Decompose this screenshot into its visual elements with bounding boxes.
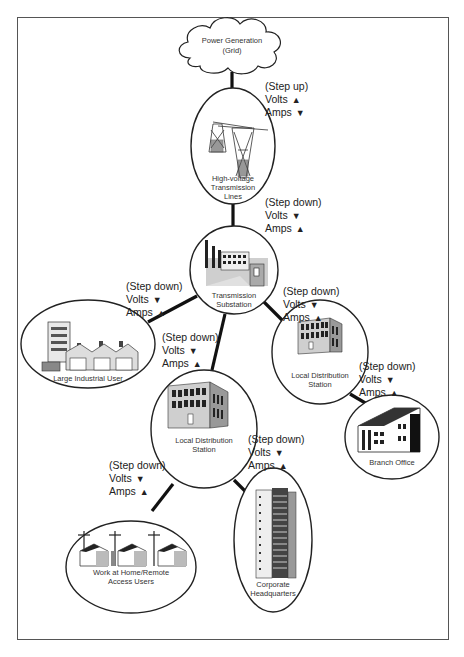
home-label: Work at Home/Remote Access Users [80,568,182,586]
volts-label: Volts [126,293,149,305]
annotation-mode: (Step down) [359,360,416,373]
volts-label: Volts [359,373,382,385]
amps-label: Amps [359,386,386,398]
annotation-mode: (Step down) [265,196,322,209]
amps-label: Amps [283,311,310,323]
hv-label-line2: Transmission [193,183,273,192]
arrow-up-icon: ▲ [292,95,301,105]
arrow-up-icon: ▲ [296,224,305,234]
arrow-up-icon: ▲ [193,359,202,369]
arrow-down-icon: ▼ [386,375,395,385]
hv-label-line1: High-voltage [193,174,273,183]
volts-label: Volts [265,209,288,221]
annotation-mode: (Step down) [283,285,340,298]
volts-label: Volts [248,446,271,458]
amps-label: Amps [248,459,275,471]
volts-label: Volts [283,298,306,310]
annotation-mode: (Step down) [248,433,305,446]
arrow-down-icon: ▼ [136,474,145,484]
office-building-icon [168,382,228,428]
local-right-label: Local Distribution Station [280,371,360,389]
hq-label-line2: Headquarters [238,589,308,598]
arrow-down-icon: ▼ [153,295,162,305]
volts-label: Volts [109,472,132,484]
annotation-sub-to-local-center: (Step down) Volts▼ Amps▲ [162,331,219,371]
arrow-up-icon: ▲ [314,313,323,323]
volts-label: Volts [265,93,288,105]
local-center-node [151,370,257,488]
annotation-mode: (Step down) [109,459,166,472]
local-center-label-line2: Station [163,445,245,454]
hv-lines-label: High-voltage Transmission Lines [193,174,273,201]
diagram-canvas [0,0,464,657]
industrial-label-line1: Large Industrial User [38,374,138,383]
branch-label-line1: Branch Office [352,458,432,467]
grid-label-line1: Power Generation [182,36,282,46]
hq-label-line1: Corporate [238,580,308,589]
annotation-local-right-to-branch: (Step down) Volts▼ Amps▲ [359,360,416,400]
arrow-down-icon: ▼ [189,346,198,356]
annotation-hv-to-sub: (Step down) Volts▼ Amps▲ [265,196,322,236]
substation-label: Transmission Substation [194,291,274,309]
annotation-mode: (Step down) [162,331,219,344]
annotation-mode: (Step down) [126,280,183,293]
annotation-local-center-to-hq: (Step down) Volts▼ Amps▲ [248,433,305,473]
local-right-label-line2: Station [280,380,360,389]
grid-label-line2: (Grid) [182,46,282,56]
local-right-label-line1: Local Distribution [280,371,360,380]
annotation-sub-to-industrial: (Step down) Volts▼ Amps▲ [126,280,183,320]
volts-label: Volts [162,344,185,356]
home-label-line1: Work at Home/Remote [80,568,182,577]
substation-label-line1: Transmission [194,291,274,300]
branch-label: Branch Office [352,458,432,467]
annotation-mode: (Step up) [265,80,308,93]
amps-label: Amps [109,485,136,497]
arrow-up-icon: ▲ [140,487,149,497]
grid-label: Power Generation (Grid) [182,36,282,56]
amps-label: Amps [265,222,292,234]
arrow-down-icon: ▼ [310,300,319,310]
arrow-up-icon: ▲ [279,461,288,471]
industrial-label: Large Industrial User [38,374,138,383]
hv-label-line3: Lines [193,192,273,201]
annotation-grid-to-hv: (Step up) Volts▲ Amps▼ [265,80,308,120]
arrow-down-icon: ▼ [275,448,284,458]
hq-label: Corporate Headquarters [238,580,308,598]
annotation-local-center-to-home: (Step down) Volts▼ Amps▲ [109,459,166,499]
arrow-up-icon: ▲ [157,308,166,318]
annotation-sub-to-local-right: (Step down) Volts▼ Amps▲ [283,285,340,325]
amps-label: Amps [126,306,153,318]
local-center-label-line1: Local Distribution [163,436,245,445]
home-node [66,521,196,613]
substation-label-line2: Substation [194,300,274,309]
arrow-down-icon: ▼ [296,108,305,118]
arrow-down-icon: ▼ [292,211,301,221]
skyscraper-icon [256,488,296,578]
arrow-up-icon: ▲ [390,388,399,398]
amps-label: Amps [162,357,189,369]
local-center-label: Local Distribution Station [163,436,245,454]
amps-label: Amps [265,106,292,118]
home-label-line2: Access Users [80,577,182,586]
